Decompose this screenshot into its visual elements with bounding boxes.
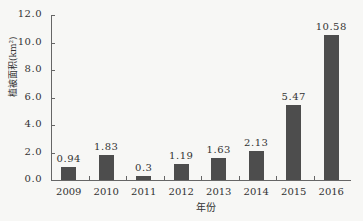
bar-value-label: 1.63 [199, 144, 239, 155]
bar-2015 [286, 105, 301, 180]
bar-2011 [136, 176, 151, 180]
bar-2010 [99, 155, 114, 180]
y-tick-label: 2.0 [2, 146, 42, 157]
y-tick-label: 12.0 [2, 8, 42, 19]
y-tick-label: 0.0 [2, 173, 42, 184]
x-tick-label: 2016 [311, 186, 351, 197]
x-tick-label: 2015 [274, 186, 314, 197]
y-tick-mark [51, 15, 55, 16]
y-tick-label: 10.0 [2, 36, 42, 47]
y-tick-mark [51, 125, 55, 126]
bar-value-label: 1.83 [86, 141, 126, 152]
x-tick-label: 2014 [236, 186, 276, 197]
y-tick-mark [51, 98, 55, 99]
bar-2016 [324, 35, 339, 180]
x-tick-mark [201, 176, 202, 180]
x-tick-mark [239, 176, 240, 180]
x-axis-line [51, 180, 351, 181]
y-tick-mark [51, 43, 55, 44]
x-tick-mark [276, 176, 277, 180]
bar-2014 [249, 151, 264, 180]
bar-value-label: 2.13 [236, 137, 276, 148]
bar-chart: 植被面积(km²) 0.02.04.06.08.010.012.0 0.9420… [0, 0, 363, 221]
bar-value-label: 5.47 [274, 91, 314, 102]
x-tick-mark [89, 176, 90, 180]
bar-value-label: 0.94 [49, 153, 89, 164]
x-tick-label: 2012 [161, 186, 201, 197]
bar-value-label: 1.19 [161, 150, 201, 161]
bar-2012 [174, 164, 189, 180]
x-tick-mark [164, 176, 165, 180]
x-tick-mark [126, 176, 127, 180]
y-tick-label: 4.0 [2, 118, 42, 129]
y-tick-label: 8.0 [2, 63, 42, 74]
bar-value-label: 10.58 [311, 21, 351, 32]
y-tick-mark [51, 70, 55, 71]
x-tick-label: 2011 [124, 186, 164, 197]
bar-2009 [61, 167, 76, 180]
y-tick-mark [51, 180, 55, 181]
x-tick-mark [314, 176, 315, 180]
x-tick-label: 2013 [199, 186, 239, 197]
y-tick-label: 6.0 [2, 91, 42, 102]
x-axis-label: 年份 [191, 199, 221, 214]
x-tick-label: 2010 [86, 186, 126, 197]
bar-value-label: 0.3 [124, 162, 164, 173]
x-tick-label: 2009 [49, 186, 89, 197]
bar-2013 [211, 158, 226, 180]
